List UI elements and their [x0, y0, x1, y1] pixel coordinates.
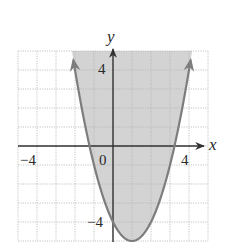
y-tick-label-neg4: −4 [87, 214, 103, 230]
y-axis-label: y [105, 27, 115, 46]
y-tick-label-4: 4 [98, 61, 106, 77]
x-tick-label-0: 0 [99, 152, 107, 168]
x-axis-label: x [208, 135, 217, 154]
x-tick-label-4: 4 [181, 152, 189, 168]
x-tick-label-neg4: −4 [20, 152, 36, 168]
parabola-inequality-graph: y x −4 0 4 4 −4 [0, 0, 225, 252]
